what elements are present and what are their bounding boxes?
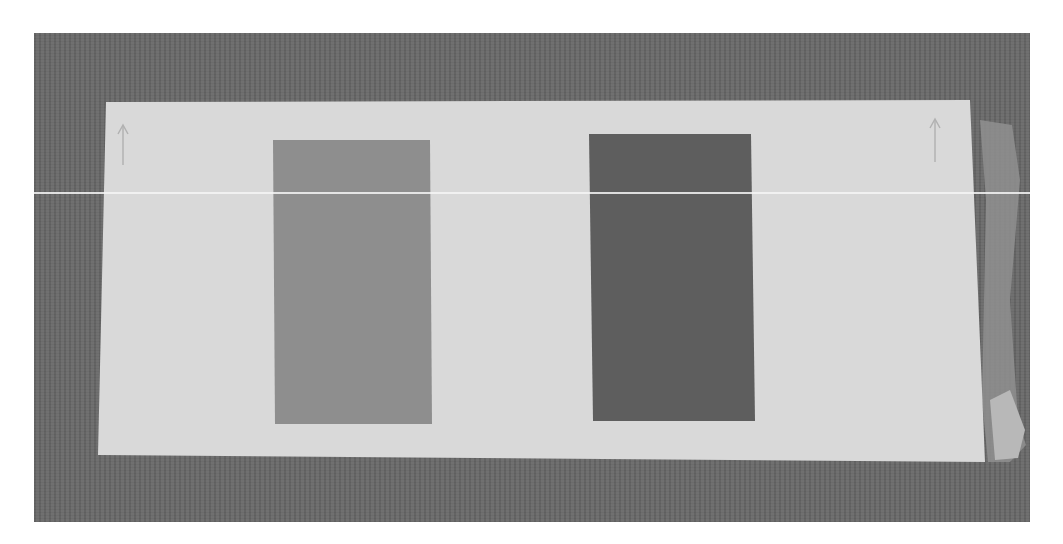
scan-line-artifact <box>34 192 1030 194</box>
tape-highlight <box>990 390 1025 460</box>
left-swatch <box>273 140 432 424</box>
right-swatch <box>589 134 755 421</box>
paper-card <box>98 100 985 462</box>
photo-scene <box>0 0 1063 544</box>
